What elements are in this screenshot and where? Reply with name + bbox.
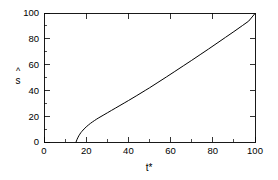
y-tick-label: 40 — [28, 85, 39, 96]
y-axis-tick-labels: 0 20 40 60 80 100 — [23, 7, 39, 147]
x-axis-title: t* — [146, 162, 153, 173]
y-axis-title: ^ s — [16, 66, 21, 86]
x-tick-label: 60 — [165, 145, 176, 156]
x-axis-tick-labels: 0 20 40 60 80 100 — [41, 145, 263, 156]
y-axis-title-label: s — [16, 75, 21, 86]
x-tick-label: 100 — [247, 145, 263, 156]
chart-figure: 0 20 40 60 80 100 0 20 40 60 80 100 ^ s … — [0, 0, 278, 180]
plot-background — [44, 13, 255, 142]
x-tick-label: 80 — [208, 145, 219, 156]
x-tick-label: 0 — [41, 145, 46, 156]
y-tick-label: 60 — [28, 59, 39, 70]
y-tick-label: 80 — [28, 33, 39, 44]
x-tick-label: 20 — [81, 145, 92, 156]
y-tick-label: 20 — [28, 111, 39, 122]
x-tick-label: 40 — [123, 145, 134, 156]
y-tick-label: 100 — [23, 7, 39, 18]
y-tick-label: 0 — [34, 136, 39, 147]
chart-plot-svg: 0 20 40 60 80 100 0 20 40 60 80 100 ^ s … — [0, 0, 278, 180]
